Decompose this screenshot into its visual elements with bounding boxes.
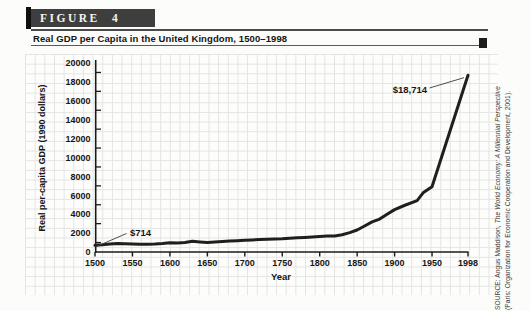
y-tick-label: 18000 [65,77,90,87]
y-tick-label: 4000 [70,209,90,219]
annotation-label-18714: $18,714 [393,84,428,95]
gdp-line-chart: 0200040006000800010000120001400016000180… [0,0,531,311]
x-tick-label: 1500 [85,258,105,268]
y-tick-label: 6000 [70,191,90,201]
x-axis-title: Year [271,271,291,282]
x-tick-label: 1850 [347,258,367,268]
x-tick-label: 1650 [197,258,217,268]
y-tick-label: 16000 [65,96,90,106]
gdp-curve-line [95,75,468,245]
source-citation-line1: SOURCE: Angus Maddison, The World Econom… [493,86,503,310]
x-tick-label: 1700 [235,258,255,268]
gdp-curve [95,75,468,245]
y-tick-label: 14000 [65,115,90,125]
y-tick-label: 10000 [65,153,90,163]
x-tick-label: 1998 [458,258,478,268]
annotation-leader-18714 [430,78,465,88]
figure-panel: FIGURE 4 Real GDP per Capita in the Unit… [0,0,531,311]
annotation-label-714: $714 [130,227,152,238]
y-tick-label: 2000 [70,228,90,238]
y-tick-label: 0 [85,247,90,257]
y-tick-label: 12000 [65,134,90,144]
y-tick-label: 8000 [70,172,90,182]
x-tick-label: 1550 [122,258,142,268]
data-annotations: $714$18,714 [97,78,464,247]
x-axis-ticks: 1500155016001650170017501800185019001950… [85,252,478,268]
x-tick-label: 1900 [385,258,405,268]
x-tick-label: 1600 [160,258,180,268]
y-axis-title: Real per-capita GDP (1990 dollars) [37,85,47,232]
x-tick-label: 1750 [272,258,292,268]
x-tick-label: 1800 [310,258,330,268]
x-tick-label: 1950 [422,258,442,268]
source-citation-line2: (Paris: Organization for Economic Cooper… [503,86,513,310]
source-citation: SOURCE: Angus Maddison, The World Econom… [493,86,512,310]
y-tick-label: 20000 [65,58,90,68]
